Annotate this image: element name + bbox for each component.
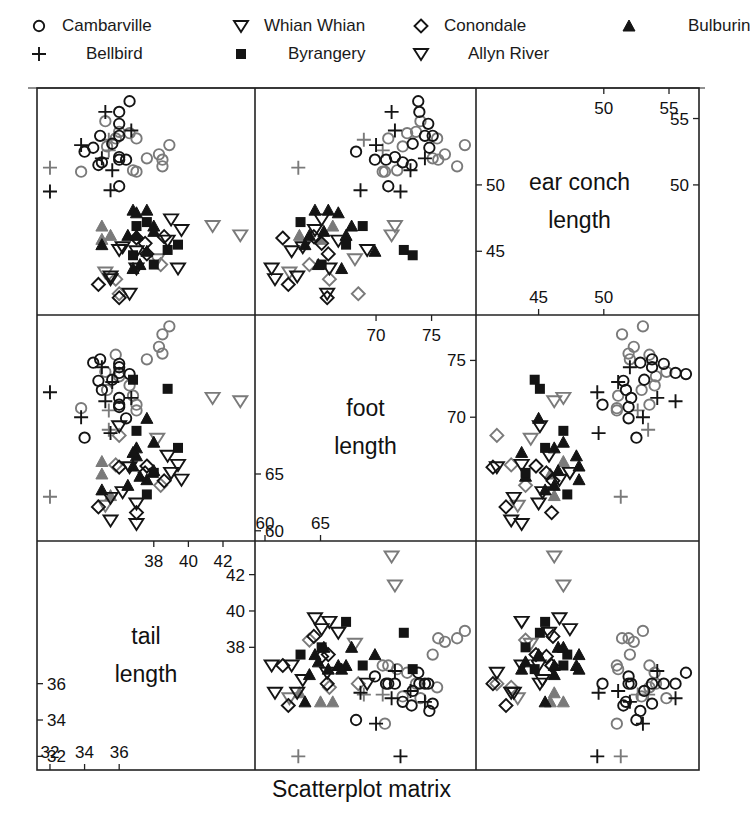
data-point (388, 581, 402, 592)
data-point (43, 161, 57, 175)
data-point (385, 105, 399, 119)
data-point (113, 291, 126, 304)
data-point (296, 650, 306, 660)
tick-label: 50 (670, 176, 689, 195)
data-point (173, 443, 183, 453)
data-point (383, 181, 393, 191)
data-point (408, 664, 418, 674)
data-point (407, 139, 417, 149)
data-point (315, 214, 329, 225)
data-point (265, 264, 279, 275)
data-point (268, 688, 282, 699)
data-point (357, 133, 371, 147)
data-point (79, 432, 89, 442)
data-point (233, 230, 247, 241)
data-point (612, 718, 622, 728)
chart-title: Scatterplot matrix (0, 776, 723, 803)
data-point (524, 434, 538, 445)
data-point (296, 675, 310, 686)
data-point (552, 613, 566, 624)
diagonal-label: foot (346, 395, 385, 421)
data-point (393, 185, 407, 199)
data-point (293, 229, 305, 240)
diagonal-label: tail (131, 623, 160, 649)
data-point (635, 706, 645, 716)
data-point (635, 357, 645, 367)
data-point (406, 700, 416, 710)
data-point (141, 412, 153, 423)
tick-label: 55 (670, 110, 689, 129)
data-point (131, 426, 141, 436)
data-point (617, 329, 627, 339)
diagonal-label: length (115, 661, 178, 687)
data-point (631, 688, 645, 702)
tick-label: 50 (594, 288, 613, 307)
data-point (336, 263, 348, 274)
data-point (116, 242, 130, 253)
data-point (623, 413, 633, 423)
data-point (383, 133, 393, 143)
data-point (659, 678, 669, 688)
data-point (399, 245, 409, 255)
data-point (427, 649, 437, 659)
data-point (233, 396, 247, 407)
data-point (149, 260, 159, 270)
data-point (360, 679, 374, 690)
tick-label: 70 (447, 408, 466, 427)
tick-label: 50 (594, 99, 613, 118)
data-point (163, 245, 173, 255)
data-point (96, 468, 108, 479)
data-point (392, 664, 402, 674)
panel-ear-vs-tail (43, 96, 247, 304)
data-point (276, 232, 289, 245)
data-point (131, 133, 141, 143)
panel-ear-vs-foot (265, 96, 470, 304)
data-point (346, 220, 358, 231)
tick-label: 40 (179, 552, 198, 571)
data-point (490, 429, 503, 442)
tick-label: 42 (226, 566, 245, 585)
data-point (499, 500, 512, 513)
data-point (563, 624, 577, 635)
data-point (95, 131, 105, 141)
data-point (535, 628, 545, 638)
data-point (124, 123, 138, 137)
data-point (96, 456, 108, 467)
data-point (669, 691, 683, 705)
data-point (124, 128, 134, 138)
data-point (547, 396, 561, 407)
tick-label: 34 (47, 711, 66, 730)
data-point (206, 221, 220, 232)
data-point (614, 490, 628, 504)
data-point (573, 649, 585, 660)
data-point (43, 385, 57, 399)
data-point (636, 385, 646, 395)
tick-label: 40 (226, 602, 245, 621)
data-point (331, 628, 345, 639)
data-point (74, 138, 88, 152)
data-point (129, 499, 143, 510)
data-point (315, 696, 327, 707)
data-point (562, 489, 572, 499)
data-point (124, 96, 134, 106)
data-point (354, 183, 368, 197)
data-point (460, 140, 470, 150)
data-point (92, 278, 105, 291)
data-point (114, 107, 124, 117)
data-point (540, 443, 550, 453)
data-point (104, 516, 118, 527)
data-point (625, 649, 635, 659)
data-point (521, 642, 531, 652)
data-point (516, 446, 528, 457)
data-point (597, 400, 607, 410)
data-point (285, 660, 299, 671)
data-point (558, 426, 568, 436)
data-point (76, 166, 86, 176)
data-point (173, 240, 183, 250)
data-point (128, 250, 138, 260)
data-point (388, 664, 402, 678)
data-point (535, 384, 545, 394)
panel-foot-vs-foot: footlength6060656570707575 (255, 315, 476, 541)
data-point (452, 633, 462, 643)
